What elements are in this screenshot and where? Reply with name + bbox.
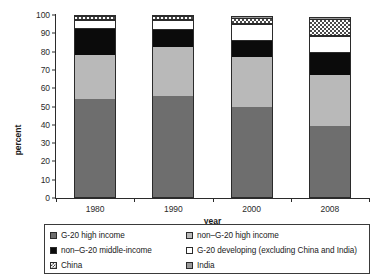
legend-item-nong20high[interactable]: non–G-20 high income	[186, 228, 364, 243]
x-axis-tick-label: 2008	[320, 204, 339, 214]
legend-swatch-g20dev	[186, 247, 193, 254]
y-axis-tick-mark	[52, 161, 56, 162]
y-axis-tick-mark	[52, 15, 56, 16]
bar-segment-nong20mid[interactable]	[152, 30, 194, 47]
bar-segment-nong20high[interactable]	[152, 47, 194, 96]
y-axis-tick-mark	[52, 33, 56, 34]
y-axis-tick-mark	[52, 88, 56, 89]
legend-label: G-20 high income	[61, 231, 125, 240]
bar-segment-india[interactable]	[309, 17, 351, 19]
bar-segment-g20high[interactable]	[152, 96, 194, 198]
x-axis-tick-mark	[369, 198, 370, 202]
legend-swatch-nong20mid	[50, 247, 57, 254]
bar-segment-nong20high[interactable]	[231, 57, 273, 107]
y-axis-tick-mark	[52, 179, 56, 180]
bar-segment-g20high[interactable]	[309, 126, 351, 198]
plot-area: year 01020304050607080901001980199020002…	[56, 15, 369, 198]
legend-swatch-china	[50, 262, 57, 269]
bar-1980[interactable]	[74, 15, 116, 198]
bar-1990[interactable]	[152, 15, 194, 198]
x-axis-tick-mark	[213, 198, 214, 202]
legend-item-nong20mid[interactable]: non–G-20 middle-income	[50, 243, 186, 258]
bar-segment-g20dev[interactable]	[152, 20, 194, 30]
bar-segment-nong20high[interactable]	[74, 55, 116, 99]
y-axis-tick-mark	[52, 124, 56, 125]
bar-segment-china[interactable]	[309, 19, 351, 36]
bar-segment-nong20mid[interactable]	[231, 41, 273, 57]
bar-segment-nong20mid[interactable]	[74, 29, 116, 56]
legend-label: G-20 developing (excluding China and Ind…	[197, 246, 357, 255]
legend-label: non–G-20 middle-income	[61, 246, 152, 255]
bar-2008[interactable]	[309, 15, 351, 198]
bar-segment-nong20high[interactable]	[309, 75, 351, 125]
legend-item-china[interactable]: China	[50, 258, 186, 273]
legend-swatch-nong20high	[186, 232, 193, 239]
bar-segment-india[interactable]	[74, 15, 116, 16]
y-axis-tick-mark	[52, 143, 56, 144]
bar-segment-india[interactable]	[152, 15, 194, 16]
stacked-bar-chart: percent year 010203040506070809010019801…	[0, 0, 379, 279]
bar-segment-india[interactable]	[231, 16, 273, 18]
bar-segment-g20dev[interactable]	[74, 20, 116, 29]
y-axis-tick-mark	[52, 69, 56, 70]
bar-segment-g20high[interactable]	[231, 107, 273, 198]
x-axis-tick-mark	[134, 198, 135, 202]
bar-2000[interactable]	[231, 15, 273, 198]
bar-segment-g20high[interactable]	[74, 99, 116, 198]
legend-label: India	[197, 261, 215, 270]
legend-label: China	[61, 261, 82, 270]
legend-item-india[interactable]: India	[186, 258, 364, 273]
y-axis-title: percent	[13, 124, 23, 155]
legend-item-g20high[interactable]: G-20 high income	[50, 228, 186, 243]
bar-segment-g20dev[interactable]	[231, 24, 273, 40]
bar-segment-china[interactable]	[231, 18, 273, 24]
x-axis-tick-label: 1980	[86, 204, 105, 214]
y-axis-tick-mark	[52, 106, 56, 107]
legend-label: non–G-20 high income	[197, 231, 279, 240]
bar-segment-china[interactable]	[152, 16, 194, 20]
bar-segment-nong20mid[interactable]	[309, 53, 351, 76]
x-axis-tick-label: 1990	[164, 204, 183, 214]
bar-segment-china[interactable]	[74, 16, 116, 20]
x-axis-tick-mark	[291, 198, 292, 202]
legend-swatch-india	[186, 262, 193, 269]
legend-swatch-g20high	[50, 232, 57, 239]
chart-legend: G-20 high incomenon–G-20 high incomenon–…	[44, 224, 370, 274]
x-axis-tick-label: 2000	[242, 204, 261, 214]
y-axis-tick-mark	[52, 51, 56, 52]
legend-item-g20dev[interactable]: G-20 developing (excluding China and Ind…	[186, 243, 364, 258]
x-axis-tick-mark	[56, 198, 57, 202]
bar-segment-g20dev[interactable]	[309, 36, 351, 52]
